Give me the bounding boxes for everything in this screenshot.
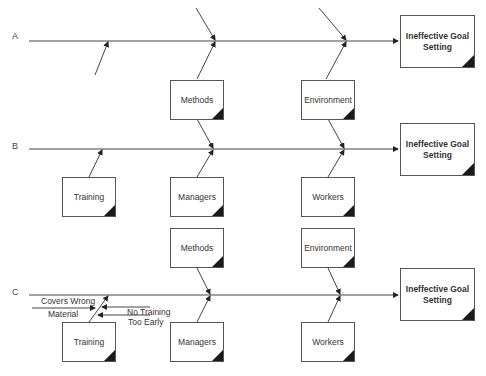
cause-label: Environment: [304, 95, 352, 105]
cause-box-workers-b: Workers: [301, 177, 355, 217]
cause-label: Managers: [178, 337, 216, 347]
effect-box-c: Ineffective Goal Setting: [400, 268, 475, 321]
corner-fold-icon: [104, 350, 115, 361]
subcause-too-early: Too Early: [128, 317, 163, 327]
corner-fold-icon: [212, 256, 223, 267]
effect-label: Ineffective Goal Setting: [401, 31, 474, 53]
cause-box-training-b: Training: [62, 177, 116, 217]
corner-fold-icon: [104, 205, 115, 216]
cause-label: Methods: [181, 243, 214, 253]
cause-box-environment-a: Environment: [301, 80, 355, 120]
effect-box-a: Ineffective Goal Setting: [400, 15, 475, 68]
cause-box-managers-b: Managers: [170, 177, 224, 217]
cause-label: Managers: [178, 192, 216, 202]
corner-fold-icon: [462, 308, 474, 320]
cause-label: Training: [74, 337, 104, 347]
corner-fold-icon: [343, 350, 354, 361]
cause-box-environment-c: Environment: [301, 228, 355, 268]
effect-label: Ineffective Goal Setting: [401, 284, 474, 306]
corner-fold-icon: [212, 350, 223, 361]
cause-label: Workers: [312, 337, 344, 347]
row-label-b: B: [12, 141, 18, 151]
effect-label: Ineffective Goal Setting: [401, 139, 474, 161]
corner-fold-icon: [343, 205, 354, 216]
cause-box-methods-c: Methods: [170, 228, 224, 268]
cause-box-methods-a: Methods: [170, 80, 224, 120]
cause-label: Methods: [181, 95, 214, 105]
corner-fold-icon: [462, 163, 474, 175]
cause-box-managers-c: Managers: [170, 322, 224, 362]
corner-fold-icon: [343, 256, 354, 267]
corner-fold-icon: [462, 55, 474, 67]
subcause-material: Material: [48, 309, 78, 319]
row-label-c: C: [12, 287, 19, 297]
cause-label: Environment: [304, 243, 352, 253]
cause-box-training-c: Training: [62, 322, 116, 362]
row-label-a: A: [12, 31, 18, 41]
cause-label: Training: [74, 192, 104, 202]
subcause-no-training: No Training: [127, 307, 170, 317]
subcause-covers-wrong: Covers Wrong: [41, 296, 95, 306]
corner-fold-icon: [212, 205, 223, 216]
effect-box-b: Ineffective Goal Setting: [400, 123, 475, 176]
cause-box-workers-c: Workers: [301, 322, 355, 362]
cause-label: Workers: [312, 192, 344, 202]
corner-fold-icon: [212, 108, 223, 119]
corner-fold-icon: [343, 108, 354, 119]
